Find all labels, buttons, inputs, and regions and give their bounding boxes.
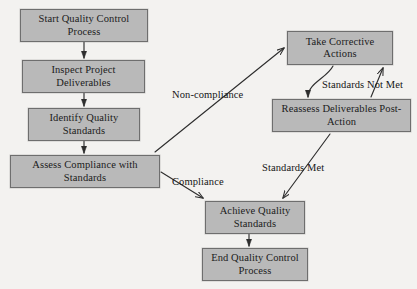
node-reassess-deliverables-label: Reassess Deliverables Post-Action xyxy=(276,103,407,128)
edge-label-compliance: Compliance xyxy=(172,177,224,188)
edge-label-standards-met: Standards Met xyxy=(262,163,324,174)
node-reassess-deliverables[interactable]: Reassess Deliverables Post-Action xyxy=(272,99,411,132)
node-assess-compliance[interactable]: Assess Compliance with Standards xyxy=(10,155,160,188)
node-identify-standards-label: Identify Quality Standards xyxy=(32,112,136,137)
node-start-label: Start Quality Control Process xyxy=(24,13,144,38)
node-inspect-deliverables[interactable]: Inspect Project Deliverables xyxy=(22,60,145,93)
node-achieve-quality-standards[interactable]: Achieve Quality Standards xyxy=(205,201,305,234)
node-take-corrective-actions[interactable]: Take Corrective Actions xyxy=(287,31,393,65)
node-take-corrective-actions-label: Take Corrective Actions xyxy=(291,36,389,61)
node-end-label: End Quality Control Process xyxy=(206,252,304,277)
node-start[interactable]: Start Quality Control Process xyxy=(20,9,148,42)
edge-label-non-compliance: Non-compliance xyxy=(172,90,243,101)
node-achieve-quality-standards-label: Achieve Quality Standards xyxy=(209,205,301,230)
node-assess-compliance-label: Assess Compliance with Standards xyxy=(14,159,156,184)
node-inspect-deliverables-label: Inspect Project Deliverables xyxy=(26,64,141,89)
edge-label-standards-met-text: Standards Met xyxy=(262,162,324,173)
flowchart-canvas: Start Quality Control Process Inspect Pr… xyxy=(0,0,417,289)
node-identify-standards[interactable]: Identify Quality Standards xyxy=(28,108,140,141)
node-end[interactable]: End Quality Control Process xyxy=(202,248,308,281)
edge-label-non-compliance-text: Non-compliance xyxy=(172,89,243,100)
edge-label-compliance-text: Compliance xyxy=(172,176,224,187)
edge-label-standards-not-met-text: Standards Not Met xyxy=(322,79,403,90)
edge-label-standards-not-met: Standards Not Met xyxy=(322,80,403,91)
